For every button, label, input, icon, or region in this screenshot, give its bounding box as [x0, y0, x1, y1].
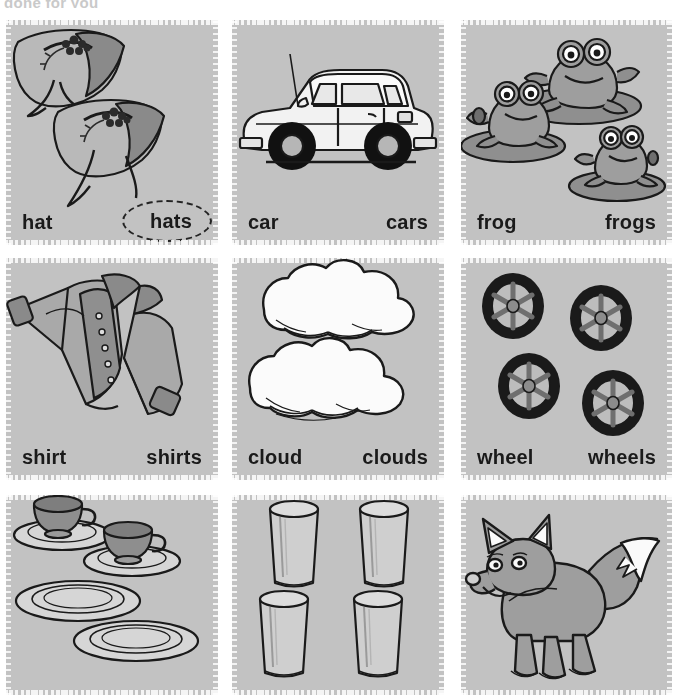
label-plural-cars[interactable]: cars [386, 207, 428, 237]
card-wheel[interactable]: wheel wheels [461, 258, 672, 480]
label-plural-clouds[interactable]: clouds [362, 442, 428, 472]
card-car[interactable]: car cars [232, 20, 444, 245]
label-plural-wheels[interactable]: wheels [588, 442, 656, 472]
card-fox[interactable] [461, 495, 672, 695]
label-singular-hat: hat [22, 207, 53, 237]
card-frog[interactable]: frog frogs [461, 20, 672, 245]
card-fox-labels [461, 657, 672, 687]
card-wheel-labels: wheel wheels [461, 442, 672, 472]
card-hat-labels: hat hats [6, 207, 218, 237]
card-shirt[interactable]: shirt shirts [6, 258, 218, 480]
card-cloud[interactable]: cloud clouds [232, 258, 444, 480]
label-singular-car: car [248, 207, 279, 237]
card-hat[interactable]: hat hats [6, 20, 218, 245]
card-shirt-labels: shirt shirts [6, 442, 218, 472]
label-singular-shirt: shirt [22, 442, 66, 472]
card-cup-labels [6, 657, 218, 687]
picture-card-grid: hat hats [0, 20, 677, 681]
label-plural-shirts[interactable]: shirts [146, 442, 202, 472]
card-glass[interactable] [232, 495, 444, 695]
label-singular-wheel: wheel [477, 442, 534, 472]
card-frog-labels: frog frogs [461, 207, 672, 237]
label-plural-hats[interactable]: hats [140, 205, 202, 237]
card-glass-labels [232, 657, 444, 687]
card-car-labels: car cars [232, 207, 444, 237]
card-cup[interactable] [6, 495, 218, 695]
label-singular-frog: frog [477, 207, 517, 237]
label-plural-frogs[interactable]: frogs [605, 207, 656, 237]
card-cloud-labels: cloud clouds [232, 442, 444, 472]
page-header-cutoff-text: done for you [4, 0, 254, 8]
label-singular-cloud: cloud [248, 442, 302, 472]
